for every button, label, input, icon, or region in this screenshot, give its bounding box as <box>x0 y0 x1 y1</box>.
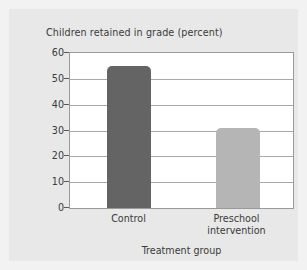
gridline-40 <box>70 105 293 106</box>
y-tick-label-40: 40 <box>52 98 64 109</box>
bar-preschool-intervention <box>216 128 260 208</box>
bar-control <box>107 66 151 208</box>
plot-area <box>69 52 294 209</box>
gridline-50 <box>70 79 293 80</box>
x-axis-title: Treatment group <box>69 245 294 256</box>
y-tick-label-60: 60 <box>52 47 64 58</box>
figure-panel: Children retained in grade (percent) 0 1… <box>9 9 298 261</box>
y-tick-label-20: 20 <box>52 150 64 161</box>
y-tick-label-10: 10 <box>52 176 64 187</box>
y-tick-label-30: 30 <box>52 124 64 135</box>
y-axis-tick-labels: 0 10 20 30 40 50 60 <box>37 52 64 209</box>
x-tick-label-control: Control <box>69 213 188 225</box>
chart-title: Children retained in grade (percent) <box>46 27 223 38</box>
y-tick-label-50: 50 <box>52 72 64 83</box>
figure-canvas: Children retained in grade (percent) 0 1… <box>0 0 307 270</box>
x-tick-label-preschool-intervention: Preschool intervention <box>177 213 296 236</box>
